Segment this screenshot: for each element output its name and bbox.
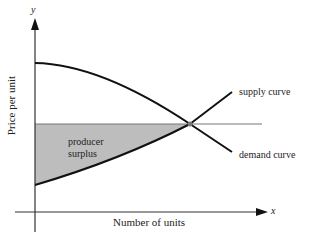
producer-surplus-region bbox=[35, 124, 190, 185]
supply-curve-label: supply curve bbox=[239, 87, 290, 97]
x-axis-label: Number of units bbox=[113, 217, 185, 228]
x-axis-arrow-icon bbox=[256, 208, 268, 216]
region-label-line2: surplus bbox=[68, 149, 97, 159]
y-axis-variable: y bbox=[31, 5, 35, 15]
y-axis-arrow-icon bbox=[31, 18, 39, 30]
demand-curve-label: demand curve bbox=[239, 150, 295, 160]
x-axis-variable: x bbox=[271, 206, 275, 216]
y-axis-label: Price per unit bbox=[6, 76, 17, 135]
diagram-canvas bbox=[0, 0, 311, 238]
equilibrium-point bbox=[188, 122, 193, 127]
region-label-line1: producer bbox=[68, 137, 104, 147]
